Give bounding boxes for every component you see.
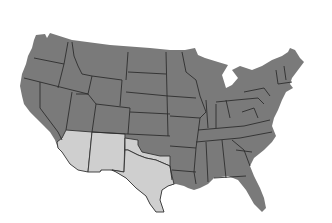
us-map <box>0 0 332 223</box>
state-new-mexico <box>88 132 125 172</box>
